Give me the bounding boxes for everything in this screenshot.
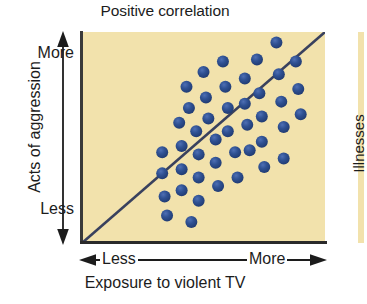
data-point — [161, 210, 173, 222]
data-point — [156, 146, 168, 158]
data-point — [244, 144, 256, 156]
data-point — [292, 83, 304, 95]
x-axis-line — [80, 241, 327, 244]
data-point — [295, 108, 307, 120]
data-point — [275, 96, 287, 108]
x-axis-high-label: More — [247, 250, 287, 268]
x-axis-low-label: Less — [100, 250, 138, 268]
data-point — [258, 161, 270, 173]
data-point — [185, 216, 197, 228]
data-point — [232, 172, 244, 184]
data-point — [217, 56, 229, 68]
data-point — [176, 140, 188, 152]
data-point — [156, 167, 168, 179]
data-point — [176, 184, 188, 196]
data-point — [222, 125, 234, 137]
data-point — [278, 121, 290, 133]
scatter-plot-svg — [82, 32, 325, 243]
data-point — [278, 153, 290, 165]
data-points-group — [156, 37, 307, 228]
data-point — [180, 81, 192, 93]
data-point — [200, 91, 212, 103]
scatter-plot-area — [82, 32, 325, 243]
data-point — [256, 136, 268, 148]
data-point — [270, 37, 282, 49]
data-point — [290, 56, 302, 68]
data-point — [222, 102, 234, 114]
data-point — [253, 87, 265, 99]
trend-line-segment — [82, 32, 325, 243]
trend-line — [82, 32, 325, 243]
data-point — [239, 72, 251, 84]
neighbor-chart-y-axis-title: Illnesses — [350, 94, 367, 194]
data-point — [173, 117, 185, 129]
data-point — [193, 195, 205, 207]
data-point — [273, 68, 285, 80]
data-point — [239, 98, 251, 110]
data-point — [229, 146, 241, 158]
data-point — [183, 102, 195, 114]
data-point — [190, 125, 202, 137]
data-point — [210, 157, 222, 169]
data-point — [251, 53, 263, 65]
y-axis-line — [80, 31, 83, 244]
data-point — [159, 191, 171, 203]
data-point — [193, 148, 205, 160]
data-point — [193, 172, 205, 184]
x-axis-title: Exposure to violent TV — [0, 274, 330, 292]
chart-title: Positive correlation — [0, 2, 330, 20]
data-point — [198, 66, 210, 78]
data-point — [210, 134, 222, 146]
data-point — [219, 81, 231, 93]
data-point — [256, 110, 268, 122]
data-point — [241, 119, 253, 131]
data-point — [202, 113, 214, 125]
y-axis-double-arrow-icon — [52, 30, 74, 246]
data-point — [212, 180, 224, 192]
data-point — [176, 163, 188, 175]
